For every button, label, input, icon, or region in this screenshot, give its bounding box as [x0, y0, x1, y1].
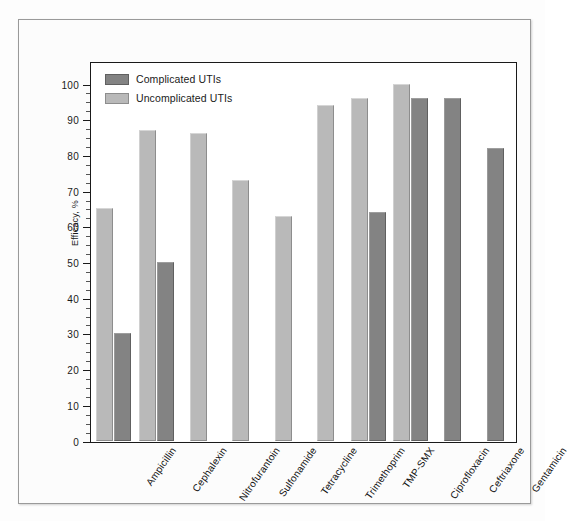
y-tick-major [83, 406, 90, 407]
y-tick-major [83, 442, 90, 443]
legend-item-complicated: Complicated UTIs [105, 73, 232, 85]
bar-uncomplicated [232, 180, 249, 441]
legend-label-uncomplicated: Uncomplicated UTIs [136, 92, 232, 104]
x-axis-label: Ciprofloxacin [448, 445, 492, 501]
bar-group [432, 65, 474, 441]
y-tick-label: 100 [49, 79, 79, 90]
bar-uncomplicated [317, 105, 334, 441]
x-axis-label: Ceftriaxone [487, 445, 527, 495]
bar-complicated [411, 98, 428, 441]
y-tick-major [83, 263, 90, 264]
bar-group [347, 65, 389, 441]
y-tick-label: 40 [49, 293, 79, 304]
bar-complicated [487, 148, 504, 441]
x-axis-label: Gentamicin [529, 445, 568, 494]
y-tick-major [83, 85, 90, 86]
y-tick-label: 90 [49, 115, 79, 126]
bar-complicated [114, 333, 131, 440]
figure-outer-frame: Efficacy, % 0102030405060708090100 Compl… [18, 19, 531, 504]
x-axis-label: Cephalexin [190, 445, 229, 494]
y-tick-major [83, 370, 90, 371]
bar-uncomplicated [393, 84, 410, 441]
y-axis: Efficacy, % 0102030405060708090100 [19, 20, 90, 503]
y-tick-label: 60 [49, 222, 79, 233]
legend-swatch-complicated-icon [105, 74, 129, 85]
bar-group [220, 65, 262, 441]
bar-group [177, 65, 219, 441]
bar-complicated [157, 262, 174, 441]
y-tick-major [83, 299, 90, 300]
bar-uncomplicated [139, 130, 156, 441]
y-tick-label: 10 [49, 400, 79, 411]
legend-label-complicated: Complicated UTIs [136, 73, 221, 85]
bar-complicated [444, 98, 461, 441]
x-axis-labels: AmpicillinCephalexinNitrofurantoinSulfon… [90, 445, 517, 521]
x-axis-label: Nitrofurantoin [237, 445, 282, 503]
bar-group [389, 65, 431, 441]
x-axis-label: Tetracycline [318, 445, 359, 497]
y-tick-label: 0 [49, 436, 79, 447]
plot-area: Complicated UTIs Uncomplicated UTIs [90, 62, 517, 443]
bar-uncomplicated [190, 133, 207, 440]
bar-complicated [369, 212, 386, 440]
y-tick-major [83, 192, 90, 193]
y-tick-label: 50 [49, 258, 79, 269]
bar-group [93, 65, 135, 441]
y-tick-major [83, 156, 90, 157]
legend-item-uncomplicated: Uncomplicated UTIs [105, 92, 232, 104]
y-tick-label: 80 [49, 150, 79, 161]
y-tick-label: 30 [49, 329, 79, 340]
bars-layer [93, 65, 515, 441]
y-tick-label: 70 [49, 186, 79, 197]
y-tick-major [83, 227, 90, 228]
x-axis-label: Trimethoprim [363, 445, 407, 501]
legend-swatch-uncomplicated-icon [105, 93, 129, 104]
bar-group [262, 65, 304, 441]
y-tick-major [83, 334, 90, 335]
y-tick-major [83, 120, 90, 121]
bar-uncomplicated [351, 98, 368, 441]
bar-group [474, 65, 516, 441]
bar-uncomplicated [96, 208, 113, 440]
bar-uncomplicated [275, 216, 292, 441]
y-tick-label: 20 [49, 365, 79, 376]
x-axis-label: Sulfonamide [277, 445, 319, 499]
x-axis-label: Ampicillin [144, 445, 178, 488]
bar-group [305, 65, 347, 441]
legend: Complicated UTIs Uncomplicated UTIs [105, 73, 232, 111]
bar-group [135, 65, 177, 441]
